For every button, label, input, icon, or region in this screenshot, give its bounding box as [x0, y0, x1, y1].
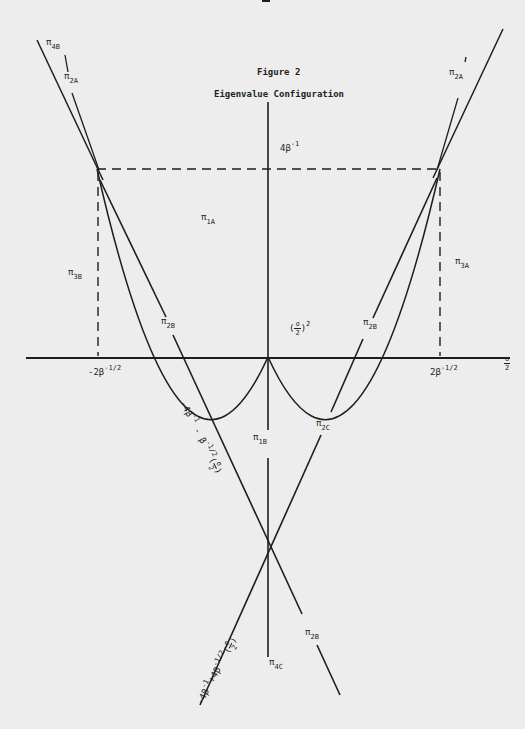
x-tick-left-label: -2β-1/2	[88, 368, 121, 377]
figure-subtitle: Eigenvalue Configuration	[214, 90, 344, 99]
label-pi1B: π1B	[253, 433, 267, 442]
line-pi2A-right-tick	[465, 57, 466, 62]
label-pi4C: π4C	[269, 658, 283, 667]
line-pi2A-right	[437, 98, 458, 170]
line-ascending-mid	[331, 339, 363, 412]
line-descending-upper	[100, 180, 166, 317]
line-right-outer	[433, 29, 503, 178]
parabola-label: (σ2)2	[289, 320, 310, 337]
label-pi4B: π4B	[46, 38, 60, 47]
y-tick-label: 4β-1	[280, 144, 299, 153]
label-pi3B: π3B	[68, 268, 82, 277]
x-axis-label: σ2	[504, 355, 510, 372]
label-pi2A-left: π2A	[64, 72, 78, 81]
line-descending-lower	[173, 335, 302, 614]
line-pi2A-left-tick	[65, 55, 68, 72]
label-pi2A-right: π2A	[449, 68, 463, 77]
line-pi4B	[37, 40, 103, 180]
label-pi2B-bottom: π2B	[305, 628, 319, 637]
line-descending-tail	[317, 645, 340, 695]
line-pi2A-left	[72, 93, 99, 170]
label-pi2B-right: π2B	[363, 318, 377, 327]
x-tick-right-label: 2β-1/2	[430, 368, 458, 377]
figure-title: Figure 2	[257, 68, 300, 77]
label-pi2B-left: π2B	[161, 317, 175, 326]
label-pi1A: π1A	[201, 213, 215, 222]
label-pi2C: π2C	[316, 419, 330, 428]
label-pi3A: π3A	[455, 257, 469, 266]
